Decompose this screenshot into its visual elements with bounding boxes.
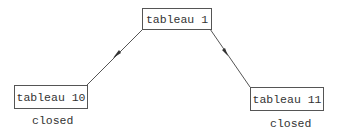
edge-tableau1-to-tableau10 [87,29,143,85]
arrowhead-icon [113,50,121,58]
arrowhead-icon [222,48,228,56]
node-tableau-11: tableau 11 [250,87,324,111]
node-status-tableau-10: closed [32,114,73,127]
node-tableau-10: tableau 10 [14,85,88,109]
node-label: tableau 11 [252,93,321,106]
node-label: tableau 1 [146,13,208,26]
node-tableau-1: tableau 1 [142,8,212,30]
edge-tableau1-to-tableau11 [210,29,250,87]
node-label: tableau 10 [16,91,85,104]
node-status-tableau-11: closed [270,117,311,130]
